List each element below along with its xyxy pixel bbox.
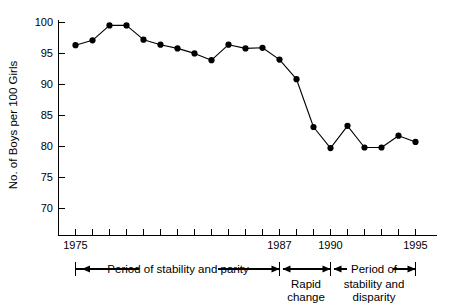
x-axis-ticks: [76, 229, 416, 236]
data-point: [293, 76, 299, 82]
line-chart-svg: No. of Boys per 100 Girls 100 95 90 85 8…: [0, 0, 454, 304]
y-tick-label-100: 100: [35, 16, 53, 28]
y-tick-label-70: 70: [41, 202, 53, 214]
data-series-line: [76, 25, 416, 148]
x-tick-label-1990: 1990: [318, 239, 342, 251]
data-point: [72, 42, 78, 48]
annotation-label-stability-disparity-1: Period of: [351, 263, 398, 275]
data-point: [191, 50, 197, 56]
data-point: [259, 45, 265, 51]
data-point: [276, 57, 282, 63]
data-point: [412, 139, 418, 145]
x-tick-label-1995: 1995: [403, 239, 427, 251]
annotation-stability-parity: Period of stability and parity: [76, 262, 280, 276]
y-axis-title: No. of Boys per 100 Girls: [7, 61, 19, 190]
y-axis-ticks: [59, 23, 66, 209]
annotation-label-rapid-change-2: change: [287, 291, 325, 303]
data-point-markers: [72, 22, 418, 151]
y-tick-label-90: 90: [41, 78, 53, 90]
data-point: [378, 144, 384, 150]
data-point: [123, 22, 129, 28]
annotation-label-stability-disparity-3: disparity: [353, 291, 396, 303]
x-tick-label-1987: 1987: [267, 239, 291, 251]
y-tick-label-95: 95: [41, 47, 53, 59]
chart-figure: No. of Boys per 100 Girls 100 95 90 85 8…: [0, 0, 454, 304]
y-tick-label-75: 75: [41, 171, 53, 183]
annotation-label-stability-disparity-2: stability and: [344, 278, 405, 290]
data-point: [106, 22, 112, 28]
y-tick-label-80: 80: [41, 140, 53, 152]
data-point: [174, 45, 180, 51]
x-tick-label-1975: 1975: [63, 239, 87, 251]
data-point: [140, 37, 146, 43]
data-point: [225, 42, 231, 48]
data-point: [361, 144, 367, 150]
y-tick-label-85: 85: [41, 109, 53, 121]
data-point: [344, 123, 350, 129]
data-point: [208, 57, 214, 63]
data-point: [310, 124, 316, 130]
data-point: [395, 133, 401, 139]
data-point: [242, 45, 248, 51]
annotation-stability-disparity: Period of stability and disparity: [334, 262, 416, 303]
data-point: [157, 42, 163, 48]
annotation-rapid-change: Rapid change: [283, 262, 331, 303]
annotation-label-rapid-change-1: Rapid: [291, 278, 321, 290]
data-point: [327, 145, 333, 151]
data-point: [89, 37, 95, 43]
